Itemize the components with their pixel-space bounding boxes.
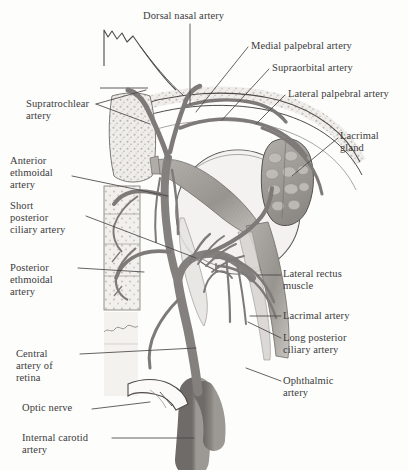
label-central-artery-of-retina: Central artery of retina [16, 348, 53, 385]
label-lacrimal-artery: Lacrimal artery [283, 310, 350, 322]
ethmoid-sinus-column [104, 186, 140, 310]
label-short-posterior-ciliary-artery: Short posterior ciliary artery [10, 200, 65, 237]
label-lateral-rectus-muscle: Lateral rectus muscle [283, 268, 342, 292]
label-optic-nerve: Optic nerve [22, 402, 72, 414]
anatomical-figure: Dorsal nasal artery Medial palpebral art… [0, 0, 408, 470]
lacrimal-gland [261, 138, 313, 225]
label-lateral-palpebral-artery: Lateral palpebral artery [288, 88, 389, 100]
label-medial-palpebral-artery: Medial palpebral artery [251, 40, 352, 52]
label-supraorbital-artery: Supraorbital artery [272, 62, 353, 74]
label-lacrimal-gland: Lacrimal gland [340, 130, 379, 154]
label-ophthalmic-artery: Ophthalmic artery [283, 375, 334, 399]
label-internal-carotid-artery: Internal carotid artery [22, 432, 88, 456]
label-posterior-ethmoidal-artery: Posterior ethmoidal artery [10, 262, 53, 299]
label-long-posterior-ciliary-artery: Long posterior ciliary artery [283, 332, 347, 356]
label-supratrochlear-artery: Supratrochlear artery [26, 98, 89, 122]
label-anterior-ethmoidal-artery: Anterior ethmoidal artery [10, 155, 53, 192]
label-dorsal-nasal-artery: Dorsal nasal artery [143, 10, 224, 22]
